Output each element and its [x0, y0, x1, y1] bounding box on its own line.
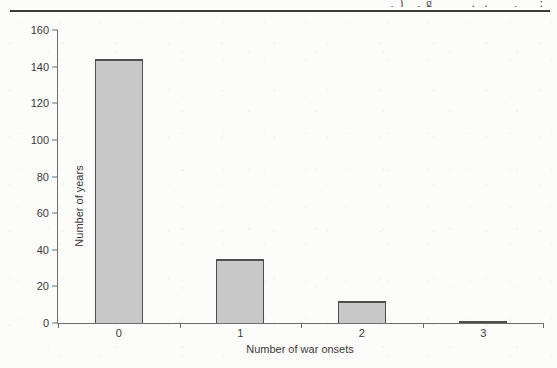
plot-area: Number of years 020406080100120140160012… — [57, 30, 544, 324]
header-rule — [10, 10, 550, 12]
bar-2 — [338, 301, 386, 323]
y-axis-tick-label: 100 — [19, 134, 49, 145]
y-axis-tick — [52, 213, 58, 214]
x-axis-tick — [543, 323, 544, 328]
y-axis-tick — [52, 249, 58, 250]
y-axis-tick — [52, 103, 58, 104]
y-axis-tick-label: 160 — [19, 25, 49, 36]
y-axis-tick — [52, 30, 58, 31]
cropped-header-fragment: , ) , g . . , ; — [391, 0, 544, 7]
y-axis-tick-label: 60 — [19, 208, 49, 219]
y-axis-tick-label: 0 — [19, 318, 49, 329]
y-axis-tick — [52, 139, 58, 140]
bar-0 — [95, 59, 143, 323]
bar-3 — [459, 321, 507, 323]
scanned-book-page: , ) , g . . , ; Number of years 02040608… — [0, 0, 557, 368]
bar-1 — [216, 259, 264, 323]
x-axis-tick — [423, 323, 424, 328]
x-axis-title: Number of war onsets — [57, 343, 543, 355]
y-axis-tick-label: 80 — [19, 171, 49, 182]
x-axis-tick — [58, 323, 59, 328]
y-axis-tick-label: 140 — [19, 61, 49, 72]
cropped-header-text: , ) , g . . , ; — [0, 0, 548, 7]
y-axis-tick-label: 40 — [19, 244, 49, 255]
x-category-label-0: 0 — [116, 328, 122, 339]
x-axis-tick — [180, 323, 181, 328]
x-category-label-3: 3 — [480, 328, 486, 339]
x-axis-tick — [301, 323, 302, 328]
x-category-label-2: 2 — [359, 328, 365, 339]
y-axis-tick — [52, 286, 58, 287]
y-axis-tick — [52, 176, 58, 177]
y-axis-title: Number of years — [73, 161, 85, 251]
y-axis-tick-label: 20 — [19, 281, 49, 292]
y-axis-tick — [52, 66, 58, 67]
y-axis-tick-label: 120 — [19, 98, 49, 109]
x-category-label-1: 1 — [237, 328, 243, 339]
